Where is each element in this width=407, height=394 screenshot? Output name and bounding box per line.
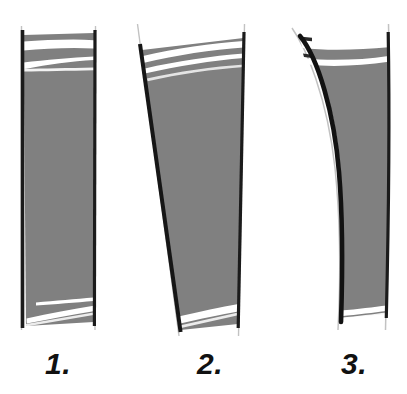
panel-label-1: 1. xyxy=(45,349,71,379)
figure-illustration xyxy=(0,0,407,394)
panel-1-right-edge xyxy=(94,30,95,326)
panel-1-illustration xyxy=(22,26,96,330)
figure-root: 1. 2. 3. xyxy=(0,0,407,394)
panel-1-body-fill xyxy=(24,33,95,326)
panel-label-2: 2. xyxy=(197,349,223,379)
panel-label-3: 3. xyxy=(341,349,367,379)
